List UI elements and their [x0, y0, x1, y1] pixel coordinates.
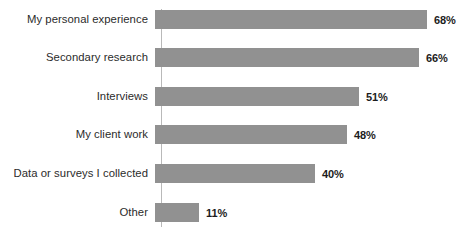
category-axis-line [161, 9, 162, 227]
bar-value-label: 40% [322, 168, 344, 180]
bar-value-label: 51% [366, 91, 388, 103]
category-label: Secondary research [0, 51, 155, 64]
bar-row: Interviews 51% [0, 87, 473, 106]
bar-segment [155, 87, 359, 106]
bar-container: 66% [155, 48, 473, 67]
bar-container: 51% [155, 87, 473, 106]
horizontal-bar-chart: My personal experience 68% Secondary res… [0, 0, 473, 245]
bar-value-label: 66% [426, 52, 448, 64]
bar-row: My client work 48% [0, 125, 473, 144]
category-label: My personal experience [0, 13, 155, 26]
bar-segment [155, 125, 347, 144]
bar-container: 68% [155, 10, 473, 29]
bar-value-label: 11% [206, 207, 227, 219]
category-label: My client work [0, 128, 155, 141]
bar-row: Secondary research 66% [0, 48, 473, 67]
bar-container: 48% [155, 125, 473, 144]
bar-value-label: 48% [354, 129, 376, 141]
bar-container: 11% [155, 203, 473, 222]
bar-segment [155, 48, 419, 67]
bar-segment [155, 164, 315, 183]
category-label: Other [0, 206, 155, 219]
bar-container: 40% [155, 164, 473, 183]
bar-row: My personal experience 68% [0, 10, 473, 29]
bar-row: Data or surveys I collected 40% [0, 164, 473, 183]
bar-value-label: 68% [434, 14, 456, 26]
category-label: Interviews [0, 90, 155, 103]
bar-segment [155, 203, 199, 222]
bar-row: Other 11% [0, 203, 473, 222]
category-label: Data or surveys I collected [0, 167, 155, 180]
bar-segment [155, 10, 427, 29]
